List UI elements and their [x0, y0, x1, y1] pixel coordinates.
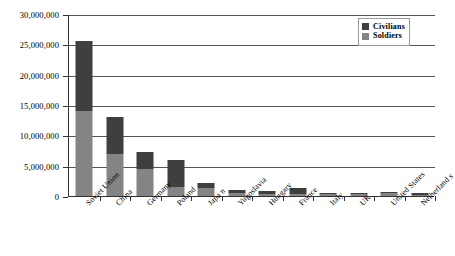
bar-group: [252, 14, 283, 196]
legend-swatch-civilians: [362, 23, 369, 30]
legend-item-soldiers: Soldiers: [362, 32, 405, 40]
y-tick-label: 15,000,000: [0, 101, 59, 111]
bar-segment-soldiers: [76, 111, 93, 196]
bar-group: [222, 14, 253, 196]
bar-stack: [167, 160, 184, 196]
bar-group: [283, 14, 314, 196]
x-tick-mark: [374, 196, 375, 201]
y-tick-label: 20,000,000: [0, 71, 59, 81]
bar-segment-civilians: [76, 41, 93, 111]
bar-group: [100, 14, 131, 196]
legend-item-civilians: Civilians: [362, 23, 405, 31]
legend-swatch-soldiers: [362, 33, 369, 40]
bar-stack: [137, 152, 154, 196]
bar-group: [313, 14, 344, 196]
y-tick-label: 30,000,000: [0, 10, 59, 20]
y-tick-label: 0: [0, 192, 59, 202]
bar-segment-civilians: [137, 152, 154, 170]
bar-stack: [76, 41, 93, 196]
y-tick-label: 25,000,000: [0, 40, 59, 50]
legend-label-civilians: Civilians: [373, 23, 405, 31]
y-tick-mark: [63, 197, 68, 198]
bar-segment-civilians: [106, 117, 123, 153]
bar-group: [191, 14, 222, 196]
y-tick-label: 10,000,000: [0, 131, 59, 141]
bar-segment-soldiers: [137, 169, 154, 196]
bar-group: [69, 14, 100, 196]
chart-legend: Civilians Soldiers: [358, 18, 410, 46]
bar-group: [161, 14, 192, 196]
legend-label-soldiers: Soldiers: [373, 32, 402, 40]
bar-group: [130, 14, 161, 196]
y-tick-label: 5,000,000: [0, 162, 59, 172]
